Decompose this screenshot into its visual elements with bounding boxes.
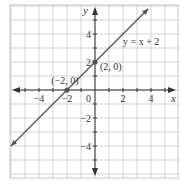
x-tick-label: −2 [62, 93, 73, 104]
x-tick-label: 2 [121, 93, 126, 104]
point-label: (−2, 0) [51, 75, 78, 87]
y-axis-label: y [82, 4, 88, 16]
x-axis-label: x [170, 92, 176, 104]
y-tick-label: 4 [86, 29, 91, 40]
origin-label: 0 [86, 93, 91, 104]
grid [10, 5, 178, 178]
grid-border [10, 5, 178, 178]
equation-label: y = x + 2 [123, 36, 159, 47]
x-axis-arrow-left-icon [12, 87, 20, 93]
line-y-equals-x-plus-2 [11, 9, 148, 146]
y-tick-label: −4 [80, 141, 91, 152]
coordinate-plane: −4−22442−2−4 x y 0 (−2, 0)(2, 0) y = x +… [0, 0, 181, 185]
point-marker [64, 87, 69, 92]
y-axis-arrow-down-icon [92, 168, 98, 176]
y-tick-label: −2 [80, 113, 91, 124]
y-axis-arrow-up-icon [92, 7, 98, 15]
point-label: (2, 0) [100, 61, 122, 73]
series-layer [11, 9, 148, 146]
x-tick-label: −4 [34, 93, 45, 104]
point-marker [92, 59, 97, 64]
x-tick-label: 4 [149, 93, 154, 104]
